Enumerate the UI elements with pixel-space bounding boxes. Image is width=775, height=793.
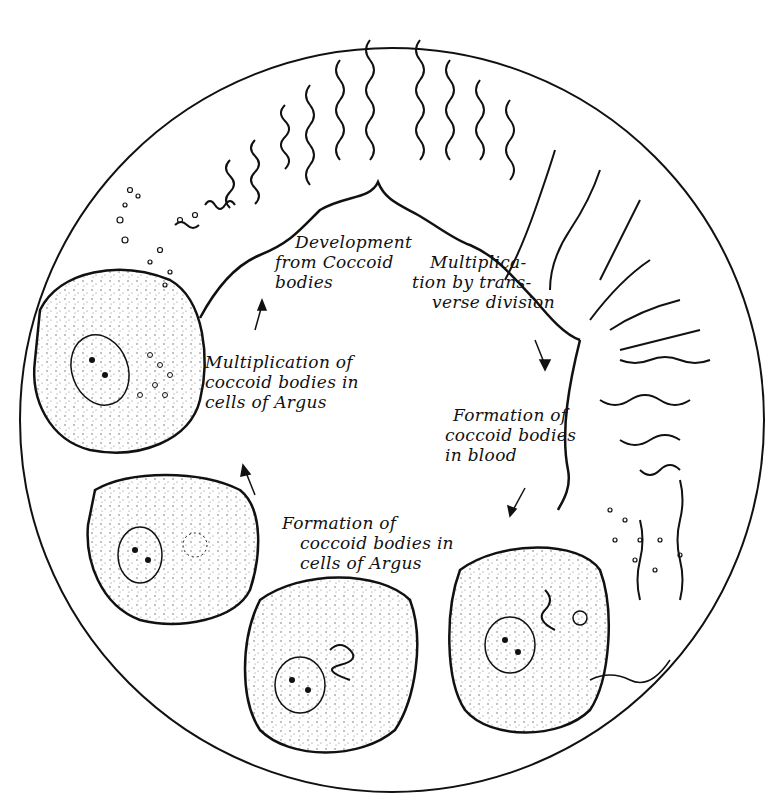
cell-middle-left [88, 475, 259, 624]
life-cycle-diagram: Development from Coccoid bodies Multipli… [0, 0, 775, 793]
label-multiplication-argus: Multiplication of coccoid bodies in cell… [205, 352, 359, 412]
cell-bottom-center [245, 578, 417, 753]
label-development: Development from Coccoid bodies [275, 232, 412, 292]
cell-top-left [34, 270, 204, 453]
label-formation-argus: Formation of coccoid bodies in cells of … [282, 513, 454, 573]
label-formation-blood: Formation of coccoid bodies in blood [445, 405, 576, 465]
label-transverse-division: Multiplica- tion by trans- verse divisio… [412, 252, 555, 312]
